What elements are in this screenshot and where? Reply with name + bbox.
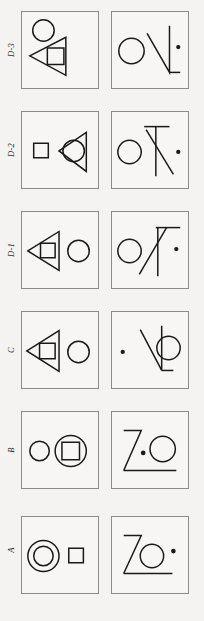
row-label-c: C (2, 300, 20, 400)
panel-d3-left-drawing (22, 12, 98, 88)
panel-d1-left-drawing (22, 212, 98, 288)
figure-panel-grid: D-3 D-2 (0, 0, 204, 621)
panel-a-left[interactable] (21, 516, 99, 594)
panel-d3-right[interactable] (111, 11, 189, 89)
figure-row-d2: D-2 (0, 100, 204, 200)
row-label-d2: D-2 (2, 100, 20, 200)
panel-c-left-drawing (22, 312, 98, 388)
figure-row-d1: D-1 (0, 200, 204, 300)
row-label-b: B (2, 400, 20, 500)
panel-a-right[interactable] (111, 516, 189, 594)
figure-row-d3: D-3 (0, 0, 204, 100)
panel-d1-left[interactable] (21, 211, 99, 289)
panel-d2-right[interactable] (111, 111, 189, 189)
panel-a-right-drawing (112, 517, 188, 593)
panel-a-left-drawing (22, 517, 98, 593)
figure-row-b: B (0, 400, 204, 500)
panel-c-left[interactable] (21, 311, 99, 389)
panel-d3-right-drawing (112, 12, 188, 88)
figure-row-c: C (0, 300, 204, 400)
panel-b-right-drawing (112, 412, 188, 488)
panel-d3-left[interactable] (21, 11, 99, 89)
panel-d2-left-drawing (22, 112, 98, 188)
panel-b-left-drawing (22, 412, 98, 488)
panel-b-right[interactable] (111, 411, 189, 489)
panel-b-left[interactable] (21, 411, 99, 489)
panel-d1-right[interactable] (111, 211, 189, 289)
panel-c-right[interactable] (111, 311, 189, 389)
panel-d2-right-drawing (112, 112, 188, 188)
row-label-d3: D-3 (2, 0, 20, 100)
row-label-a: A (2, 500, 20, 600)
panel-d1-right-drawing (112, 212, 188, 288)
figure-row-a: A (0, 500, 204, 600)
row-label-d1: D-1 (2, 200, 20, 300)
panel-c-right-drawing (112, 312, 188, 388)
panel-d2-left[interactable] (21, 111, 99, 189)
